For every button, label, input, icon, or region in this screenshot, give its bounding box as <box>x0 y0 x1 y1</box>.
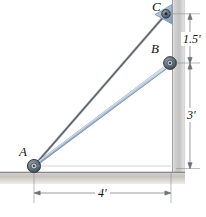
point-label-b: B <box>151 42 159 55</box>
point-label-a: A <box>19 145 27 158</box>
ground <box>0 172 185 184</box>
diagram-canvas <box>0 0 206 217</box>
dimension-label-4ft: 4' <box>95 186 110 200</box>
cable-ac <box>34 14 166 166</box>
wall <box>172 0 185 174</box>
dimension-label-3ft: 3' <box>185 108 198 122</box>
statics-diagram: C B A 1.5' 3' 4' <box>0 0 206 217</box>
pin-joint-b <box>164 57 177 70</box>
point-label-c: C <box>152 0 161 13</box>
strut-ab <box>30 60 174 171</box>
dimension-label-1-5ft: 1.5' <box>181 32 203 46</box>
